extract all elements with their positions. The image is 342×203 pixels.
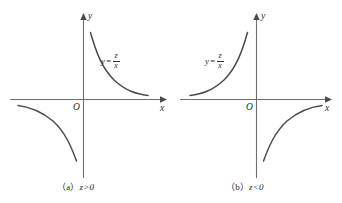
x-axis-label-a: x [160, 104, 164, 114]
y-axis-arrowhead-b [253, 13, 259, 20]
y-axis-label-b: y [261, 12, 265, 22]
x-axis-arrowhead-a [160, 96, 167, 102]
panel-caption-a: （a）z>0 [57, 180, 94, 193]
caption-index-b: （b） [226, 182, 249, 192]
formula-equals-a: = [106, 56, 112, 66]
formula-lhs-b: y [205, 56, 209, 66]
formula-lhs-a: y [101, 56, 105, 66]
figure-container: y x O y = z x （a）z>0 [0, 0, 342, 203]
function-formula-b: y = z x [205, 52, 224, 70]
caption-condition-b: z<0 [249, 182, 264, 192]
x-axis-arrowhead-b [325, 96, 332, 102]
hyperbola-branch-quadrant-4-b [264, 106, 323, 162]
panel-b-canvas [171, 0, 342, 203]
origin-label-b: O [246, 103, 253, 113]
formula-numerator-b: z [218, 52, 223, 61]
x-axis-label-b: x [325, 104, 329, 114]
formula-fraction-b: z x [217, 52, 224, 70]
caption-condition-a: z>0 [80, 182, 95, 192]
panel-a-canvas [0, 0, 171, 203]
y-axis-arrowhead-a [80, 13, 86, 20]
origin-label-a: O [73, 103, 80, 113]
formula-denominator-a: x [113, 62, 119, 71]
hyperbola-branch-quadrant-3-a [18, 106, 77, 162]
formula-denominator-b: x [217, 62, 223, 71]
caption-index-a: （a） [57, 182, 80, 192]
diagram-panel-b: y x O y = z x （b）z<0 [171, 0, 342, 203]
function-formula-a: y = z x [101, 52, 120, 70]
formula-fraction-a: z x [113, 52, 120, 70]
panel-caption-b: （b）z<0 [226, 180, 264, 193]
y-axis-label-a: y [88, 12, 92, 22]
formula-equals-b: = [210, 56, 216, 66]
formula-numerator-a: z [114, 52, 119, 61]
diagram-panel-a: y x O y = z x （a）z>0 [0, 0, 171, 203]
